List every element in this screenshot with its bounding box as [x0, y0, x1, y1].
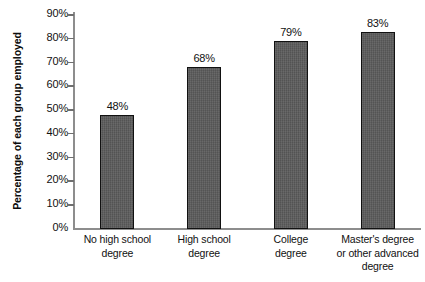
x-axis-category-label-line: College [242, 233, 341, 247]
bar-value-label: 79% [260, 26, 322, 38]
x-axis-category-label: Master's degreeor other advanceddegree [328, 233, 425, 274]
x-axis-category-label-line: or other advanced [328, 247, 425, 261]
y-axis-tick-mark [67, 180, 74, 182]
x-axis-category-label-group: No high schooldegreeHigh schooldegreeCol… [74, 233, 421, 282]
x-axis-category-label: No high schooldegree [68, 233, 167, 260]
y-axis-tick-mark [67, 14, 74, 16]
bar-group: 68% [187, 14, 221, 229]
y-axis-tick-label: 60% [28, 79, 68, 90]
x-axis-category-label-line: degree [68, 247, 167, 261]
y-axis-tick-mark [67, 109, 74, 111]
y-axis-tick-label: 0% [28, 222, 68, 233]
plot-area: 48%68%79%83% [74, 14, 421, 229]
y-axis-title: Percentage of each group employed [11, 6, 29, 236]
y-axis-tick-mark [67, 38, 74, 40]
bar-group: 79% [274, 14, 308, 229]
y-axis-tick-label: 30% [28, 151, 68, 162]
y-axis-tick-mark [67, 133, 74, 135]
x-axis-category-label-line: degree [242, 247, 341, 261]
y-axis-tick-label: 70% [28, 56, 68, 67]
bar[interactable] [100, 115, 134, 229]
bar-value-label: 83% [347, 17, 409, 29]
y-axis-tick-mark [67, 85, 74, 87]
x-axis-category-label: Collegedegree [242, 233, 341, 260]
y-axis-tick-label: 80% [28, 32, 68, 43]
y-axis-tick-mark [67, 157, 74, 159]
y-axis-tick-label: 40% [28, 127, 68, 138]
x-axis-category-label-line: degree [155, 247, 254, 261]
y-axis-tick-label: 90% [28, 8, 68, 19]
y-axis-tick-mark [67, 204, 74, 206]
x-axis-category-label-line: No high school [68, 233, 167, 247]
bar-group: 83% [361, 14, 395, 229]
bar-value-label: 48% [86, 100, 148, 112]
bar-group: 48% [100, 14, 134, 229]
bar[interactable] [187, 67, 221, 229]
y-axis-tick-mark [67, 62, 74, 64]
y-axis-tick-label: 50% [28, 103, 68, 114]
bar-chart: Percentage of each group employed 90%80%… [0, 0, 425, 282]
y-axis-tick-label: 20% [28, 174, 68, 185]
bar-value-label: 68% [173, 52, 235, 64]
x-axis-category-label-line: High school [155, 233, 254, 247]
y-axis-tick-label: 10% [28, 198, 68, 209]
y-axis-tick-label-group: 90%80%70%60%50%40%30%20%10%0% [28, 0, 68, 282]
bar[interactable] [274, 41, 308, 229]
x-axis-category-label: High schooldegree [155, 233, 254, 260]
x-axis-category-label-line: Master's degree [328, 233, 425, 247]
bar[interactable] [361, 32, 395, 229]
x-axis-category-label-line: degree [328, 260, 425, 274]
